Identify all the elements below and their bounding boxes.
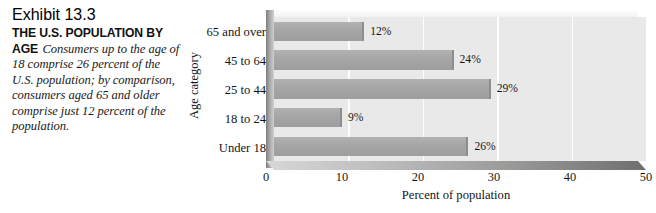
exhibit-figure: Exhibit 13.3 THE U.S. POPULATION BY AGE … — [0, 0, 656, 213]
x-axis-tick-labels: 01020304050 — [266, 170, 656, 186]
bar-row: 29% — [274, 75, 646, 104]
bar-value-label: 29% — [497, 82, 518, 95]
plot-top-face — [266, 10, 638, 17]
caption-block: Exhibit 13.3 THE U.S. POPULATION BY AGE … — [12, 6, 180, 134]
bar-row: 9% — [274, 103, 646, 132]
bar-value-label: 12% — [370, 25, 391, 38]
bar-value-label: 26% — [474, 140, 495, 153]
y-axis-tick-label: 25 to 44 — [186, 83, 266, 98]
x-axis-tick-label: 40 — [564, 170, 576, 185]
bar-row: 24% — [274, 46, 646, 75]
y-axis-tick-label: 18 to 24 — [186, 111, 266, 126]
bar — [274, 22, 363, 42]
x-axis-tick-label: 30 — [488, 170, 500, 185]
bar — [274, 108, 341, 128]
exhibit-number: Exhibit 13.3 — [12, 6, 180, 24]
x-axis-tick-label: 10 — [336, 170, 348, 185]
bar-row: 26% — [274, 132, 646, 161]
y-axis-tick-label: Under 18 — [186, 140, 266, 155]
x-axis-title: Percent of population — [266, 188, 646, 203]
plot-left-wall — [266, 10, 274, 168]
bar — [274, 50, 453, 70]
bar-chart: Age category 65 and over45 to 6425 to 44… — [178, 0, 656, 213]
bar-value-label: 24% — [460, 53, 481, 66]
y-axis-tick-labels: 65 and over45 to 6425 to 4418 to 24Under… — [186, 11, 266, 168]
y-axis-tick-label: 65 and over — [186, 25, 266, 40]
bar-end-cap — [466, 137, 468, 157]
y-axis-tick-label: 45 to 64 — [186, 54, 266, 69]
exhibit-body-text: Consumers up to the age of 18 comprise 2… — [12, 42, 179, 134]
bar-end-cap — [362, 22, 364, 42]
plot-area-3d: 12%24%29%9%26% — [266, 10, 646, 170]
x-axis-tick-label: 0 — [263, 170, 269, 185]
bar — [274, 79, 490, 99]
bar-end-cap — [452, 50, 454, 70]
exhibit-heading-wrapper: THE U.S. POPULATION BY AGE Consumers up … — [12, 25, 180, 134]
bar-row: 12% — [274, 17, 646, 46]
bar-value-label: 9% — [348, 111, 363, 124]
bar — [274, 137, 467, 157]
x-axis-tick-label: 20 — [412, 170, 424, 185]
bar-end-cap — [340, 108, 342, 128]
plot-floor — [266, 161, 646, 170]
x-axis-tick-label: 50 — [640, 170, 652, 185]
plot-panel: 12%24%29%9%26% — [274, 17, 646, 161]
bar-end-cap — [489, 79, 491, 99]
